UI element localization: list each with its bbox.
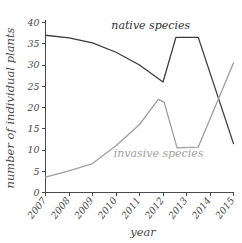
y-tick-label: 15 — [27, 123, 39, 134]
series-line-native-species — [46, 35, 234, 143]
y-tick-label: 5 — [33, 166, 39, 177]
series-annotations: native speciesinvasive species — [111, 19, 203, 160]
x-tick-label: 2013 — [165, 195, 189, 222]
series-annotation-native-species: native species — [111, 19, 190, 32]
y-tick-label: 25 — [26, 81, 39, 92]
x-tick-label: 2009 — [71, 195, 95, 222]
x-tick-label: 2014 — [189, 195, 213, 222]
y-axis-title: number of individual plants — [3, 27, 17, 188]
y-tick-label: 10 — [27, 144, 39, 155]
x-tick-label: 2012 — [142, 195, 166, 222]
y-axis-ticks: 0510152025303540 — [26, 17, 45, 198]
series-line-invasive-species — [46, 63, 234, 177]
x-tick-label: 2010 — [95, 195, 119, 222]
x-tick-label: 2007 — [24, 194, 49, 221]
x-axis: 200720082009201020112012201320142015 — [24, 193, 236, 222]
series-annotation-invasive-species: invasive species — [114, 147, 204, 160]
chart-container: 0510152025303540 20072008200920102011201… — [0, 0, 242, 243]
y-tick-label: 40 — [26, 17, 39, 28]
x-tick-label: 2008 — [48, 195, 72, 222]
line-chart: 0510152025303540 20072008200920102011201… — [0, 0, 242, 243]
x-axis-ticks: 200720082009201020112012201320142015 — [24, 193, 236, 222]
y-tick-label: 30 — [27, 59, 39, 70]
x-tick-label: 2015 — [212, 195, 236, 222]
x-axis-title: year — [129, 225, 157, 239]
y-tick-label: 20 — [26, 102, 39, 113]
y-tick-label: 35 — [27, 38, 39, 49]
y-axis: 0510152025303540 — [26, 17, 45, 198]
x-tick-label: 2011 — [118, 195, 142, 222]
